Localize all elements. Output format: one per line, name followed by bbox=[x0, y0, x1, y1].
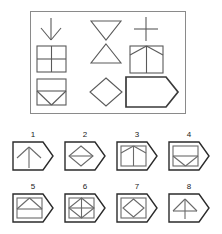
answer-option-5[interactable]: 5 bbox=[11, 182, 56, 227]
matrix-svg bbox=[30, 11, 186, 114]
option-number-7: 7 bbox=[115, 182, 160, 191]
option-figure-8 bbox=[167, 191, 212, 227]
answer-option-8[interactable]: 8 bbox=[167, 182, 212, 227]
matrix-cell-r3c1 bbox=[37, 79, 66, 105]
option-figure-6 bbox=[63, 191, 108, 227]
answer-option-6[interactable]: 6 bbox=[63, 182, 108, 227]
answer-option-2[interactable]: 2 bbox=[63, 130, 108, 175]
option-figure-4 bbox=[167, 139, 212, 175]
option-number-4: 4 bbox=[167, 130, 212, 139]
matrix-cell-r1c1 bbox=[41, 18, 61, 40]
answer-option-4[interactable]: 4 bbox=[167, 130, 212, 175]
option-number-3: 3 bbox=[115, 130, 160, 139]
matrix-cell-r1c3 bbox=[134, 17, 158, 41]
option-figure-1 bbox=[11, 139, 56, 175]
option-number-8: 8 bbox=[167, 182, 212, 191]
answer-option-3[interactable]: 3 bbox=[115, 130, 160, 175]
matrix-cell-r2c1 bbox=[37, 46, 66, 72]
matrix-frame bbox=[30, 11, 186, 114]
matrix-cell-r1c2 bbox=[91, 21, 121, 40]
puzzle-canvas: 1 2 bbox=[0, 0, 222, 234]
matrix-cell-r2c3 bbox=[130, 46, 163, 73]
option-figure-2 bbox=[63, 139, 108, 175]
option-figure-7 bbox=[115, 191, 160, 227]
matrix-cell-r3c3-missing bbox=[126, 77, 178, 107]
matrix-cell-r2c2 bbox=[91, 44, 121, 63]
option-number-1: 1 bbox=[11, 130, 56, 139]
answer-options-row-two: 5 6 bbox=[0, 182, 222, 227]
option-number-2: 2 bbox=[63, 130, 108, 139]
matrix-cell-r3c2 bbox=[90, 78, 122, 106]
option-number-6: 6 bbox=[63, 182, 108, 191]
option-figure-3 bbox=[115, 139, 160, 175]
answer-option-7[interactable]: 7 bbox=[115, 182, 160, 227]
option-number-5: 5 bbox=[11, 182, 56, 191]
answer-options-row-one: 1 2 bbox=[0, 130, 222, 175]
answer-option-1[interactable]: 1 bbox=[11, 130, 56, 175]
option-figure-5 bbox=[11, 191, 56, 227]
